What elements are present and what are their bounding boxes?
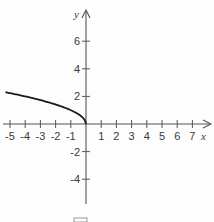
- x-tick-label: -5: [5, 130, 15, 142]
- y-axis-label: y: [73, 8, 79, 20]
- x-tick-label: 4: [144, 130, 150, 142]
- y-tick-label: 2: [74, 90, 80, 102]
- x-axis-label: x: [200, 130, 206, 142]
- footer-box: [74, 218, 87, 222]
- y-tick-label: -4: [70, 173, 80, 185]
- x-tick-label: 6: [174, 130, 180, 142]
- function-graph: -5-4-3-2-11234567642-2-4 x y: [0, 0, 214, 222]
- x-tick-label: 1: [98, 130, 104, 142]
- x-tick-label: 2: [113, 130, 119, 142]
- x-tick-label: 3: [129, 130, 135, 142]
- ticks: [10, 41, 192, 179]
- x-tick-label: -1: [66, 130, 76, 142]
- y-tick-label: 6: [74, 35, 80, 47]
- x-tick-label: -2: [51, 130, 61, 142]
- axes: [3, 10, 211, 204]
- chart-container: -5-4-3-2-11234567642-2-4 x y: [0, 0, 214, 222]
- x-tick-label: 5: [159, 130, 165, 142]
- x-tick-label: -3: [36, 130, 46, 142]
- tick-labels: -5-4-3-2-11234567642-2-4: [5, 35, 195, 185]
- y-tick-label: -2: [70, 146, 80, 158]
- x-tick-label: -4: [20, 130, 30, 142]
- x-tick-label: 7: [189, 130, 195, 142]
- y-tick-label: 4: [74, 63, 80, 75]
